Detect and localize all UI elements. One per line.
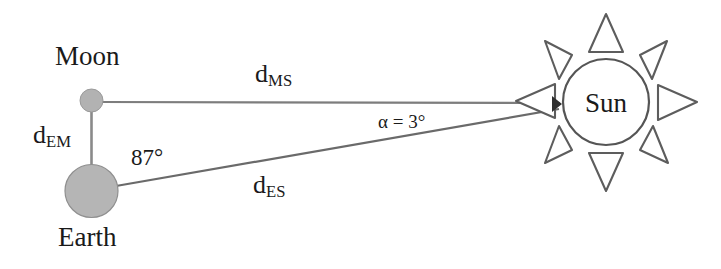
angle-at-earth-label: 87°: [131, 146, 163, 169]
angle-at-sun-label: α = 3°: [378, 112, 425, 131]
earth-body: [65, 165, 118, 218]
sun-ray-e: [658, 85, 697, 120]
distance-earth-sun-label: dES: [253, 172, 286, 198]
moon-label: Moon: [55, 43, 120, 70]
sun-ray-sw: [545, 126, 572, 163]
sun-ray-n: [589, 14, 623, 52]
distance-earth-moon-label: dEM: [33, 122, 71, 148]
earth-sun-line: [116, 109, 559, 186]
sun-ray-s: [589, 153, 623, 191]
sun-ray-ne: [640, 41, 667, 79]
sun-ray-se: [640, 126, 668, 163]
distance-moon-sun-subscript: MS: [268, 71, 292, 90]
moon-body: [80, 89, 103, 112]
sun-label: Sun: [585, 88, 628, 118]
distance-earth-moon-subscript: EM: [46, 132, 71, 151]
distance-earth-sun-subscript: ES: [266, 182, 286, 201]
distance-earth-sun-symbol: d: [253, 170, 266, 199]
distance-moon-sun-label: dMS: [255, 61, 292, 87]
distance-earth-moon-symbol: d: [33, 120, 46, 149]
sun-ray-nw: [545, 41, 572, 79]
distance-moon-sun-symbol: d: [255, 59, 268, 88]
earth-label: Earth: [58, 224, 116, 251]
aristarchus-diagram: Sun Moon Earth dMS dEM dES 87° α = 3°: [0, 0, 721, 269]
moon-sun-line: [102, 102, 560, 103]
